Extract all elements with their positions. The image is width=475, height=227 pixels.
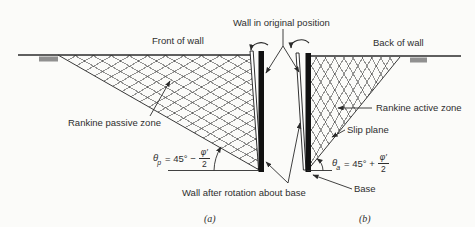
label-rankine-active-zone: Rankine active zone xyxy=(376,103,462,113)
theta-subscript: p xyxy=(157,159,161,166)
leader-wall-original-left xyxy=(266,46,283,73)
formula-equals: = 45° + xyxy=(344,158,375,169)
wall-original-bar-right xyxy=(306,53,312,172)
label-slip-plane: Slip plane xyxy=(347,125,389,135)
angle-arc-theta-p xyxy=(214,147,221,171)
wall-original-bar-left xyxy=(259,51,265,172)
label-wall-original: Wall in original position xyxy=(233,18,330,28)
label-rankine-passive-zone: Rankine passive zone xyxy=(68,118,161,128)
leader-wall-after-rotation-left xyxy=(266,162,288,183)
leader-wall-after-rotation-right xyxy=(288,123,300,183)
rotation-arrow-right-icon xyxy=(291,40,309,48)
rankine-zones-figure: Wall in original position Front of wall … xyxy=(0,0,475,227)
label-subfigure-a: (a) xyxy=(204,213,216,224)
label-back-of-wall: Back of wall xyxy=(373,38,424,48)
label-subfigure-b: (b) xyxy=(359,213,371,224)
formula-theta-a: θa = 45° + φ′ 2 xyxy=(332,153,389,173)
leader-base xyxy=(313,175,352,189)
phi-over-2-fraction: φ′ 2 xyxy=(199,148,210,168)
angle-arc-theta-a xyxy=(317,159,323,171)
leader-slip-plane xyxy=(332,130,345,137)
theta-subscript: a xyxy=(336,164,340,171)
label-base: Base xyxy=(354,184,376,194)
label-front-of-wall: Front of wall xyxy=(152,36,204,46)
ground-hatch-marker-right xyxy=(410,58,427,63)
formula-equals: = 45° − xyxy=(165,153,196,164)
wall-after-rotation-right xyxy=(296,53,306,170)
rotation-arrow-left-icon xyxy=(251,43,268,50)
phi-prime: φ′ xyxy=(199,148,210,159)
leader-rankine-passive xyxy=(150,81,170,116)
formula-theta-p: θp = 45° − φ′ 2 xyxy=(153,148,210,168)
phi-over-2-fraction: φ′ 2 xyxy=(378,153,389,173)
ground-hatch-marker-left xyxy=(39,57,58,62)
label-wall-after-rotation: Wall after rotation about base xyxy=(182,188,306,198)
denominator-2: 2 xyxy=(381,164,386,174)
denominator-2: 2 xyxy=(202,159,207,169)
phi-prime: φ′ xyxy=(378,153,389,164)
